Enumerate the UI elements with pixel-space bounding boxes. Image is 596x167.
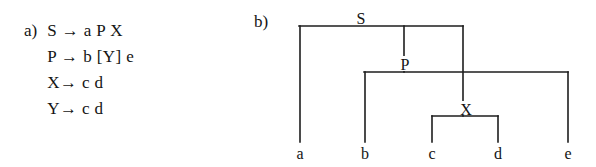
tree-node-x: X (460, 101, 472, 118)
tree-leaf-a: a (296, 145, 303, 162)
tree-edges (299, 26, 568, 142)
tree-leaf-d: d (494, 145, 502, 162)
tree-leaf-c: c (428, 145, 435, 162)
parse-tree-svg: S P X a b c d e (0, 0, 596, 167)
tree-leaf-e: e (564, 145, 571, 162)
tree-node-p: P (401, 56, 410, 73)
tree-leaf-b: b (361, 145, 369, 162)
tree-node-s: S (357, 10, 366, 27)
parse-tree-diagram: S P X a b c d e (0, 0, 596, 167)
parse-tree-figure: a) S → a P X P → b [Y] e X→ c d Y→ c d b… (0, 0, 596, 167)
